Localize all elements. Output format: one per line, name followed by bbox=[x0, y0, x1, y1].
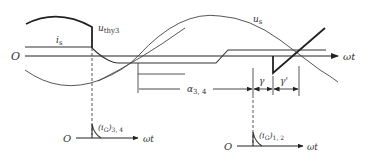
gamma-prime-label: γ' bbox=[280, 76, 288, 86]
rising-line-left bbox=[98, 28, 185, 81]
source-current-label: is bbox=[56, 35, 63, 47]
gate-current-12-axis-label: ωt bbox=[307, 142, 318, 152]
commutation-waveform-diagram: O ωt uthy3 is us α3, 4 γ γ' O ωt (iG)3, … bbox=[0, 0, 369, 162]
supply-voltage-label: us bbox=[253, 14, 263, 26]
gate-current-34-axis-label: ωt bbox=[143, 134, 154, 144]
main-origin-label: O bbox=[11, 50, 20, 63]
main-axis-label: ωt bbox=[343, 51, 356, 62]
gate-current-34-origin: O bbox=[63, 133, 71, 144]
gate-current-12-label: (iG)1, 2 bbox=[259, 131, 284, 141]
gate-current-34-label: (iG)3, 4 bbox=[98, 123, 123, 133]
thy3-voltage-label: uthy3 bbox=[98, 23, 120, 35]
gamma-label: γ bbox=[259, 76, 265, 86]
alpha-label: α3, 4 bbox=[187, 84, 207, 96]
gate-current-12-origin: O bbox=[224, 141, 232, 152]
